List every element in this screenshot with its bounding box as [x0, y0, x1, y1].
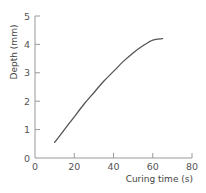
x-tick-label: 40 [107, 161, 119, 172]
y-tick-label: 4 [24, 39, 30, 50]
x-tick-label: 60 [147, 161, 159, 172]
y-tick-label: 3 [24, 67, 30, 78]
data-line [55, 39, 163, 143]
y-tick-label: 0 [24, 153, 30, 164]
x-axis-title: Curing time (s) [126, 174, 193, 184]
y-tick-label: 1 [24, 124, 30, 135]
x-tick-label: 0 [32, 161, 38, 172]
x-tick-label: 20 [68, 161, 80, 172]
chart: 012345020406080 Curing time (s) Depth (m… [0, 0, 206, 193]
y-tick-label: 2 [24, 96, 30, 107]
plot-area [55, 39, 163, 143]
axes: 012345020406080 [24, 11, 198, 173]
y-axis-title: Depth (mm) [9, 25, 19, 80]
x-tick-label: 80 [186, 161, 198, 172]
y-tick-label: 5 [24, 11, 30, 22]
